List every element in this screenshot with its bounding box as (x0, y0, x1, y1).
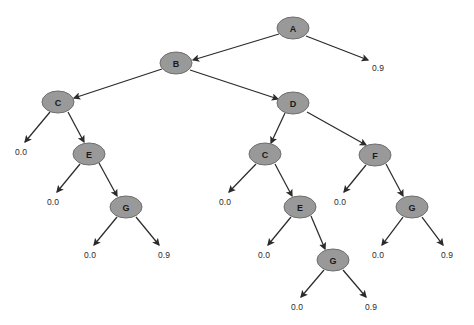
tree-edge (382, 217, 403, 245)
diagram-canvas: ABCDEGCFEGG 0.90.00.00.00.90.00.00.00.00… (0, 0, 474, 325)
node-label: G (408, 203, 415, 213)
tree-edge (57, 164, 80, 192)
tree-edge (136, 217, 159, 245)
tree-node[interactable]: G (317, 249, 349, 271)
tree-edge (343, 270, 366, 297)
node-label: D (290, 99, 297, 109)
leaf-value-label: 0.0 (47, 197, 59, 207)
node-label: A (290, 24, 297, 34)
node-label: G (329, 256, 336, 266)
tree-edge (386, 164, 403, 196)
leaf-value-label: 0.0 (258, 250, 270, 260)
tree-node[interactable]: B (160, 52, 192, 74)
leaf-value-label: 0.9 (365, 302, 377, 312)
tree-edge (229, 164, 256, 192)
tree-edge (193, 34, 279, 60)
tree-edge (190, 70, 278, 99)
tree-edge (275, 164, 292, 196)
tree-node[interactable]: D (277, 92, 309, 114)
node-label: G (122, 203, 129, 213)
tree-edge (68, 112, 84, 142)
leaf-value-label: 0.0 (291, 302, 303, 312)
tree-edge (301, 270, 324, 297)
leaf-value-label: 0.0 (334, 197, 346, 207)
tree-node[interactable]: G (110, 196, 142, 218)
tree-edge (311, 216, 325, 249)
tree-node[interactable]: E (284, 196, 316, 218)
decision-tree-svg: ABCDEGCFEGG 0.90.00.00.00.90.00.00.00.00… (0, 0, 474, 325)
leaf-value-label: 0.0 (15, 147, 27, 157)
leaf-value-label: 0.9 (372, 63, 384, 73)
node-label: C (262, 150, 269, 160)
node-label: E (86, 150, 92, 160)
node-label: C (55, 98, 62, 108)
node-label: F (372, 151, 378, 161)
leaf-value-label: 0.0 (84, 250, 96, 260)
tree-node[interactable]: F (359, 144, 391, 166)
tree-edge (307, 112, 366, 145)
node-label: E (297, 203, 303, 213)
leaf-value-label: 0.0 (219, 197, 231, 207)
tree-node[interactable]: A (277, 17, 309, 39)
node-label: B (173, 59, 180, 69)
tree-edge (344, 165, 366, 192)
tree-edge (422, 217, 443, 245)
nodes-group: ABCDEGCFEGG (42, 17, 428, 271)
tree-edge (271, 113, 285, 143)
tree-edge (25, 112, 50, 142)
tree-edge (94, 217, 117, 245)
leaf-value-label: 0.9 (441, 250, 453, 260)
tree-node[interactable]: G (396, 196, 428, 218)
tree-edge (268, 217, 291, 245)
tree-node[interactable]: C (42, 91, 74, 113)
tree-edge (74, 69, 162, 98)
leaf-value-label: 0.0 (372, 250, 384, 260)
tree-node[interactable]: E (73, 143, 105, 165)
tree-edge (306, 36, 368, 60)
leaf-value-label: 0.9 (158, 250, 170, 260)
tree-node[interactable]: C (249, 143, 281, 165)
tree-edge (99, 163, 117, 196)
